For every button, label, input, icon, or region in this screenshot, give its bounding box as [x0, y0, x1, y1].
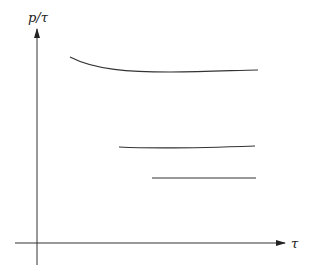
y-axis-label: p/τ — [28, 10, 48, 25]
middle-curve — [119, 146, 255, 148]
x-axis-label: τ — [291, 236, 298, 251]
diagram-canvas — [0, 0, 312, 275]
upper-curve — [70, 57, 258, 72]
